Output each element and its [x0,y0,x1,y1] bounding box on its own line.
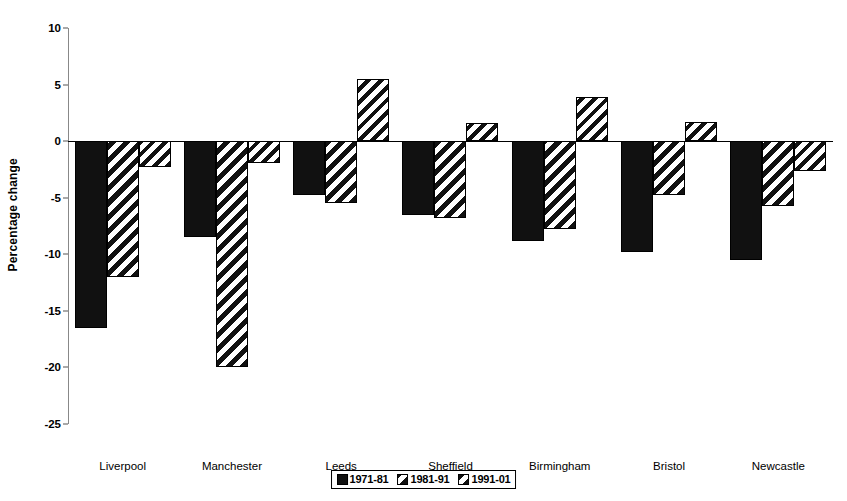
y-tick-label: -5 [27,192,61,204]
y-axis-title-text: Percentage change [6,158,20,271]
bar [762,141,794,205]
y-tick-label: -15 [27,305,61,317]
bar [730,141,762,260]
legend-label: 1971-81 [350,473,389,485]
bar [325,141,357,203]
y-axis-title: Percentage change [0,0,26,430]
bar-group [505,28,614,424]
legend-label: 1981-91 [411,473,450,485]
bar [293,141,325,195]
bar [107,141,139,277]
legend-item: 1971-81 [337,473,389,485]
bar [653,141,685,195]
chart-legend: 1971-811981-911991-01 [331,470,517,489]
legend-label: 1991-01 [471,473,510,485]
legend-item: 1981-91 [398,473,450,485]
chart-figure: Percentage change 1050-5-10-15-20-25 Liv… [0,0,847,501]
legend-swatch [398,474,409,485]
x-tick-label: Bristol [653,460,685,472]
legend-item: 1991-01 [458,473,510,485]
bar-group [68,28,177,424]
x-tick-label: Birmingham [529,460,590,472]
bar [139,141,171,167]
bar [794,141,826,170]
y-tick-label: 5 [27,79,61,91]
bar [466,123,498,141]
y-tick-label: -25 [27,418,61,430]
bar-groups [68,28,833,424]
bar [544,141,576,229]
x-tick-label: Liverpool [99,460,146,472]
y-tick-label: -10 [27,248,61,260]
bar [248,141,280,162]
y-tick-label: -20 [27,361,61,373]
bar [576,97,608,141]
bar-group [396,28,505,424]
bar [75,141,107,328]
bar [685,122,717,141]
bar [512,141,544,241]
bar [621,141,653,252]
bar [216,141,248,367]
bar-group [177,28,286,424]
x-tick-label: Newcastle [752,460,805,472]
bar-group [287,28,396,424]
y-tick-label: 10 [27,22,61,34]
legend-swatch [458,474,469,485]
bar [402,141,434,215]
y-tick-label: 0 [27,135,61,147]
bar [434,141,466,218]
bar-group [724,28,833,424]
x-tick-label: Manchester [202,460,262,472]
plot-area: 1050-5-10-15-20-25 LiverpoolManchesterLe… [68,28,833,424]
legend-swatch [337,474,348,485]
bar [184,141,216,237]
bar-group [614,28,723,424]
bar [357,79,389,141]
